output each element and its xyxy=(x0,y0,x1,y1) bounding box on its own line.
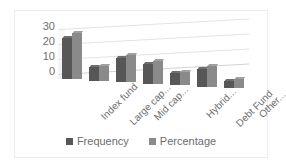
x-axis: Index fundLarge cap...Mid cap...Hybrid..… xyxy=(51,81,266,127)
bar-front-face xyxy=(89,67,99,80)
y-axis-tick: 20 xyxy=(43,36,55,47)
bar-percentage xyxy=(126,55,136,82)
bar-front-face xyxy=(116,58,126,82)
y-axis-tick: 30 xyxy=(43,21,55,32)
bar-frequency xyxy=(89,67,99,80)
bar-group xyxy=(62,33,84,79)
bar-front-face xyxy=(126,55,136,82)
bar-group xyxy=(89,66,111,81)
y-axis: 30 20 10 0 xyxy=(23,21,55,85)
legend-item-percentage: Percentage xyxy=(149,136,216,147)
legend-label: Percentage xyxy=(160,136,216,147)
legend-swatch-icon xyxy=(66,138,73,145)
bar-front-face xyxy=(72,33,82,79)
chart-legend: Frequency Percentage xyxy=(15,136,267,147)
chart-container: 30 20 10 0 Index fundLarge cap...Mid cap… xyxy=(14,10,268,158)
legend-swatch-icon xyxy=(149,138,156,145)
bar-front-face xyxy=(62,38,72,80)
bar-group xyxy=(116,55,138,82)
x-axis-label: Hybrid... xyxy=(204,86,238,120)
bar-frequency xyxy=(116,58,126,82)
legend-item-frequency: Frequency xyxy=(66,136,129,147)
y-axis-tick: 10 xyxy=(43,51,55,62)
bar-percentage xyxy=(72,33,82,79)
legend-label: Frequency xyxy=(77,136,129,147)
y-axis-tick: 0 xyxy=(49,66,55,77)
bar-frequency xyxy=(62,38,72,80)
bar-series-group xyxy=(59,27,249,79)
bar-front-face xyxy=(99,66,109,81)
bar-percentage xyxy=(99,66,109,81)
